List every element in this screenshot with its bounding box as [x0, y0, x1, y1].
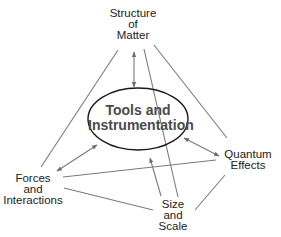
- node-forces-and-interactions: Forces and Interactions: [0, 173, 66, 206]
- center-label-line-2: Instrumentation: [88, 118, 188, 133]
- line-forces-quantum: [63, 160, 216, 177]
- arrow-quantum-tools: [184, 138, 219, 156]
- node-label-line: Scale: [150, 221, 196, 232]
- node-structure-of-matter: Structure of Matter: [98, 8, 168, 41]
- node-label-line: Interactions: [0, 195, 66, 206]
- arrow-forces-tools: [57, 145, 97, 171]
- node-label-line: Matter: [98, 30, 168, 41]
- center-label-line-1: Tools and: [88, 103, 188, 118]
- node-quantum-effects: Quantum Effects: [218, 149, 278, 171]
- center-node-tools-instrumentation: Tools and Instrumentation: [88, 103, 188, 133]
- arrow-size-tools: [150, 158, 161, 196]
- line-forces-size: [64, 188, 153, 210]
- node-label-line: Effects: [218, 160, 278, 171]
- concept-diagram: Tools and Instrumentation Structure of M…: [0, 0, 281, 237]
- line-size-quantum: [195, 175, 225, 210]
- node-size-and-scale: Size and Scale: [150, 199, 196, 232]
